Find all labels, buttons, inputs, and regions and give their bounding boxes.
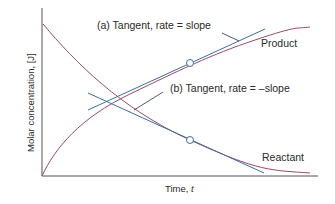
x-axis-label-text: Time, xyxy=(165,183,191,194)
leader-line-b xyxy=(134,92,163,110)
tangent-point-reactant xyxy=(187,137,194,144)
product-label: Product xyxy=(261,37,297,49)
x-axis-label-var: t xyxy=(191,183,194,194)
tangent-a-label: (a) Tangent, rate = slope xyxy=(97,19,211,31)
x-axis-label: Time, t xyxy=(165,183,194,194)
tangent-b-line xyxy=(88,93,264,173)
y-axis-label: Molar concentration, [J] xyxy=(25,53,36,152)
reactant-label: Reactant xyxy=(262,151,304,163)
rate-tangent-diagram: (a) Tangent, rate = slope (b) Tangent, r… xyxy=(0,0,335,204)
tangent-point-product xyxy=(187,60,194,67)
tangent-b-label: (b) Tangent, rate = –slope xyxy=(170,82,290,94)
leader-line-a xyxy=(222,33,239,41)
